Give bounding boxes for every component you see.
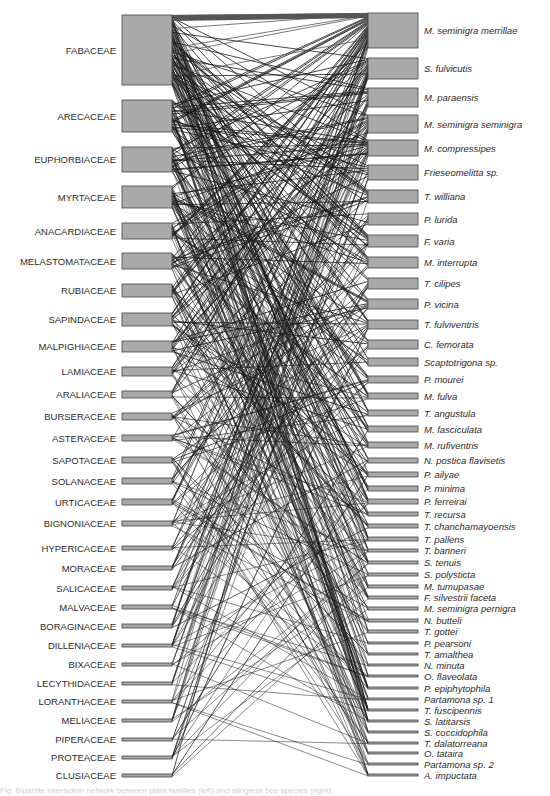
bee-species-label: P. epiphytophila <box>424 683 490 694</box>
bee-species-label: P. ailyae <box>424 469 459 480</box>
bee-species-bar <box>368 257 418 268</box>
figure-caption: Fig. Bipartite interaction network betwe… <box>0 786 550 796</box>
interaction-link <box>172 397 368 398</box>
plant-family-bar <box>122 313 172 326</box>
bee-species-bar <box>368 596 418 599</box>
bee-species-label: T. amalthea <box>424 649 473 660</box>
plant-family-label: LECYTHIDACEAE <box>37 678 116 689</box>
plant-family-label: PROTEACEAE <box>51 752 116 763</box>
bee-species-label: S. tenuis <box>424 557 461 568</box>
plant-family-label: BIGNONIACEAE <box>44 518 116 529</box>
plant-family-bar <box>122 586 172 590</box>
bee-species-label: S. coccidophila <box>424 727 488 738</box>
bee-species-bar <box>368 742 418 744</box>
bee-species-label: T. fuscipennis <box>424 705 482 716</box>
bee-species-bar <box>368 442 418 448</box>
bee-species-bar <box>368 561 418 564</box>
bee-species-label: N. butteli <box>424 615 462 626</box>
bee-species-label: S. polysticta <box>424 569 475 580</box>
bee-species-label: Scaptotrigona sp. <box>424 357 498 368</box>
plant-family-bar <box>122 738 172 741</box>
bee-species-bar <box>368 320 418 329</box>
bee-species-label: O. flaveolata <box>424 671 477 682</box>
plant-family-label: MALPIGHIACEAE <box>38 341 116 352</box>
plant-family-label: BURSERACEAE <box>44 411 116 422</box>
bee-species-label: P. minima <box>424 483 465 494</box>
bee-species-bar <box>368 499 418 504</box>
bee-species-bar <box>368 340 418 349</box>
bee-species-label: T. gottei <box>424 626 458 637</box>
plant-family-bar <box>122 624 172 628</box>
bee-species-bar <box>368 585 418 588</box>
bee-species-bar <box>368 512 418 516</box>
bee-species-bar <box>368 763 418 765</box>
bee-species-bar <box>368 358 418 366</box>
bee-species-label: T. williana <box>424 191 465 202</box>
plant-family-bar <box>122 682 172 685</box>
bee-species-bar <box>368 630 418 633</box>
bipartite-network-diagram: FABACEAEARECACEAEEUPHORBIACEAEMYRTACEAEA… <box>0 0 550 796</box>
plant-family-bar <box>122 341 172 352</box>
bee-species-bar <box>368 278 418 289</box>
bee-species-label: P. ferreirai <box>424 496 467 507</box>
bee-species-label: P. vicina <box>424 299 459 310</box>
bee-species-label: T. banneri <box>424 545 467 556</box>
bee-species-bar <box>368 709 418 711</box>
plant-family-label: MYRTACEAE <box>58 192 116 203</box>
bee-species-label: N. postica flavisetis <box>424 455 506 466</box>
plant-family-label: ASTERACEAE <box>52 433 116 444</box>
bee-species-label: P. pearsoni <box>424 638 472 649</box>
bee-species-bar <box>368 720 418 722</box>
bee-species-label: M. seminigra merrillae <box>424 25 517 36</box>
plant-family-label: SAPINDACEAE <box>48 314 116 325</box>
bee-species-label: T. angustula <box>424 408 475 419</box>
plant-family-bar <box>122 100 172 132</box>
plant-family-label: HYPERICACEAE <box>42 543 116 554</box>
plant-family-label: SALICACEAE <box>56 583 116 594</box>
bee-species-bar <box>368 537 418 541</box>
interaction-link <box>172 702 368 764</box>
bee-species-labels: M. seminigra merrillaeS. fulvicutisM. pa… <box>423 25 522 781</box>
bee-species-label: T. chanchamayoensis <box>424 521 516 532</box>
bee-species-bar <box>368 115 418 133</box>
bee-species-bar <box>368 190 418 203</box>
plant-family-label: SOLANACEAE <box>52 476 116 487</box>
plant-family-bar <box>122 756 172 759</box>
bee-species-bar <box>368 524 418 528</box>
bee-species-label: P. mourei <box>424 374 464 385</box>
bee-species-bar <box>368 458 418 463</box>
plant-family-label: LORANTHACEAE <box>38 696 116 707</box>
plant-family-bar <box>122 644 172 647</box>
plant-family-label: URTICACEAE <box>55 497 116 508</box>
bee-species-bar <box>368 607 418 610</box>
bee-species-label: M. rufiventris <box>424 440 479 451</box>
bee-species-bar <box>368 58 418 79</box>
bee-species-bar <box>368 486 418 491</box>
bee-species-label: M. interrupta <box>424 257 477 268</box>
plant-family-bar <box>122 284 172 297</box>
interaction-link <box>172 739 368 744</box>
plant-family-bar <box>122 719 172 722</box>
bee-species-bar <box>368 165 418 180</box>
bee-species-bar <box>368 13 418 48</box>
bee-species-bars <box>368 13 418 776</box>
plant-family-label: ANACARDIACEAE <box>35 226 116 237</box>
bee-species-bar <box>368 410 418 416</box>
plant-family-label: ARECACEAE <box>57 111 116 122</box>
plant-family-label: DILLENIACEAE <box>48 640 116 651</box>
plant-family-label: MELIACEAE <box>62 715 116 726</box>
plant-family-label: CLUSIACEAE <box>56 770 116 781</box>
bee-species-bar <box>368 653 418 655</box>
bee-species-bar <box>368 426 418 432</box>
interaction-link <box>172 703 368 776</box>
bee-species-label: T. fulviventris <box>424 319 479 330</box>
bee-species-label: S. latitarsis <box>424 716 471 727</box>
bee-species-label: F. varia <box>424 236 454 247</box>
plant-family-bar <box>122 147 172 172</box>
plant-family-bar <box>122 435 172 441</box>
bee-species-label: T. recursa <box>424 509 466 520</box>
bee-species-bar <box>368 698 418 700</box>
plant-family-bar <box>122 700 172 703</box>
bee-species-label: M. compressipes <box>424 143 496 154</box>
bee-species-bar <box>368 664 418 666</box>
